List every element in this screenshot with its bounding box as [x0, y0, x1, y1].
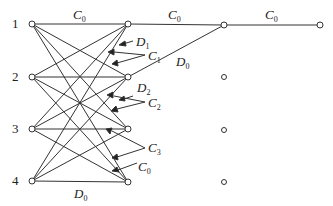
- node-mid-3: [125, 126, 131, 132]
- node-col3-1: [221, 22, 227, 28]
- label-d0-diagonal: D0: [176, 55, 189, 71]
- node-left-4: [29, 178, 35, 184]
- node-mid-2: [125, 74, 131, 80]
- node-mid-1: [125, 21, 131, 27]
- node-mid-4: [125, 179, 131, 185]
- node-left-1: [29, 21, 35, 27]
- row-label-1: 1: [12, 17, 19, 30]
- nodes: [29, 21, 323, 185]
- label-c0-top-1: C0: [73, 8, 86, 24]
- network-diagram: [0, 0, 333, 206]
- row-label-4: 4: [12, 174, 19, 187]
- label-c3: C3: [148, 141, 161, 157]
- node-left-3: [29, 126, 35, 132]
- label-c0-top-2: C0: [168, 8, 181, 24]
- label-c1: C1: [148, 49, 161, 65]
- edges: [32, 24, 320, 182]
- node-col3-3: [222, 128, 227, 133]
- node-col4-1: [317, 22, 323, 28]
- row-label-2: 2: [12, 70, 19, 83]
- arrow-pointers: [106, 41, 145, 172]
- node-left-2: [29, 74, 35, 80]
- label-d0-bottom: D0: [74, 187, 87, 203]
- label-c0-low: C0: [138, 160, 151, 176]
- label-c2: C2: [148, 96, 161, 112]
- node-col3-2: [222, 75, 227, 80]
- row-label-3: 3: [12, 122, 19, 135]
- node-col3-4: [222, 180, 227, 185]
- label-c0-top-3: C0: [265, 8, 278, 24]
